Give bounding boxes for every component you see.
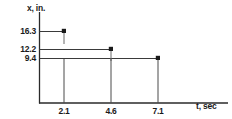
x-tick-label-4-6: 4.6 xyxy=(97,107,125,116)
y-axis-title: x, in. xyxy=(27,4,45,13)
data-point-marker-1[interactable] xyxy=(62,29,66,33)
data-point-marker-3[interactable] xyxy=(156,56,160,60)
chart-figure: x, in. t, sec 16.3 12.2 9.4 2.1 4.6 7.1 xyxy=(0,0,232,119)
x-tick-label-7-1: 7.1 xyxy=(144,107,172,116)
x-axis-title: t, sec xyxy=(196,102,217,111)
y-tick-label-9-4: 9.4 xyxy=(8,54,36,63)
x-tick-label-2-1: 2.1 xyxy=(50,107,78,116)
y-tick-label-16-3: 16.3 xyxy=(8,27,36,36)
data-point-marker-2[interactable] xyxy=(109,47,113,51)
